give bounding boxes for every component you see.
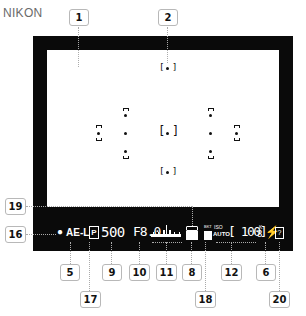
iso-label: ISO [214, 224, 223, 230]
leader-line-19 [26, 206, 192, 207]
leader-line-11 [166, 242, 167, 264]
leader-line-6 [265, 242, 266, 264]
leader-line-8 [191, 242, 192, 264]
leader-line-9 [111, 242, 112, 264]
ae-lock-indicator: AE-L [66, 227, 89, 238]
brand-label: NIKON [3, 6, 43, 20]
callout-8: 8 [182, 264, 202, 281]
leader-line-10 [139, 242, 140, 264]
callout-16: 16 [5, 226, 26, 243]
leader-line-16 [26, 234, 56, 235]
ael-dot-icon: ● [57, 226, 63, 237]
leader-line-11-bracket [152, 242, 182, 243]
callout-2: 2 [158, 9, 178, 26]
leader-line-12 [231, 242, 232, 264]
leader-line-5 [70, 242, 71, 264]
callout-6: 6 [256, 264, 276, 281]
program-shift-icon: P [89, 226, 99, 239]
callout-19: 19 [5, 198, 26, 215]
callout-1: 1 [69, 9, 89, 26]
callout-18: 18 [195, 291, 216, 308]
callout-10: 10 [129, 264, 150, 281]
callout-9: 9 [102, 264, 122, 281]
eight-seg-icon: 8 [257, 229, 262, 239]
callout-12: 12 [221, 264, 242, 281]
leader-line-2 [167, 27, 168, 63]
program-shift-label: P [91, 228, 96, 237]
callout-11: 11 [156, 264, 177, 281]
shutter-speed: 500 [101, 224, 125, 240]
callout-17: 17 [80, 291, 101, 308]
callout-5: 5 [60, 264, 80, 281]
leader-line-18 [205, 242, 206, 291]
af-point-left-middle [124, 132, 127, 135]
help-icon: ? [275, 227, 284, 239]
af-point-right-middle [209, 132, 212, 135]
leader-line-12-bracket [216, 242, 256, 243]
leader-line-1 [78, 27, 79, 67]
callout-20: 20 [269, 291, 290, 308]
bkt-label: BKT [204, 224, 212, 229]
leader-line-20 [279, 242, 280, 291]
leader-line-19-drop [192, 206, 193, 226]
leader-line-17 [89, 242, 90, 291]
help-label: ? [278, 229, 282, 236]
